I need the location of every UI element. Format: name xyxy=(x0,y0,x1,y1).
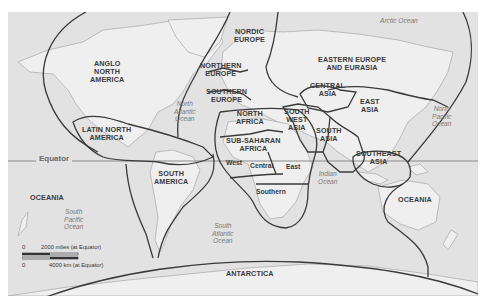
label-line: Arctic Ocean xyxy=(380,17,418,25)
region-label-southern-europe: SOUTHERN EUROPE xyxy=(206,88,247,104)
subregion-label-southern: Southern xyxy=(256,188,286,196)
ocean-label-south-pacific: South Pacific Ocean xyxy=(64,208,83,231)
scale-bar-graphic xyxy=(22,252,82,262)
label-line: Pacific xyxy=(432,113,451,121)
region-label-northern-europe: NORTHERN EUROPE xyxy=(200,62,242,78)
label-line: South xyxy=(64,208,83,216)
region-label-nordic-europe: NORDIC EUROPE xyxy=(234,28,265,44)
region-label-eastern-europe-eurasia: EASTERN EUROPE AND EURASIA xyxy=(318,56,386,72)
label-line: EUROPE xyxy=(206,96,247,104)
label-line: Atlantic xyxy=(212,230,234,238)
ocean-label-south-atlantic: South Atlantic Ocean xyxy=(212,222,234,245)
label-line: North xyxy=(432,105,451,113)
label-line: EUROPE xyxy=(200,70,242,78)
label-line: EUROPE xyxy=(234,36,265,44)
ocean-label-indian: Indian Ocean xyxy=(318,170,337,185)
label-line: AFRICA xyxy=(226,145,281,153)
label-line: South xyxy=(212,222,234,230)
region-label-central-asia: CENTRAL ASIA xyxy=(310,82,345,98)
scale-zero-miles: 0 xyxy=(22,244,25,250)
ocean-label-north-atlantic: North Atlantic Ocean xyxy=(174,100,196,123)
label-line: ASIA xyxy=(284,124,310,132)
world-regions-map: Equator xyxy=(8,12,478,296)
label-line: OCEANIA xyxy=(30,194,64,202)
scale-zero-km: 0 xyxy=(22,262,25,268)
region-label-southwest-asia: SOUTH WEST ASIA xyxy=(284,108,310,132)
label-line: ASIA xyxy=(356,158,401,166)
region-label-south-asia: SOUTH ASIA xyxy=(316,127,342,143)
region-label-oceania-west: OCEANIA xyxy=(30,194,64,202)
label-line: Pacific xyxy=(64,216,83,224)
label-line: Ocean xyxy=(64,223,83,231)
label-line: North xyxy=(174,100,196,108)
subregion-label-east: East xyxy=(286,163,300,171)
region-label-north-africa: NORTH AFRICA xyxy=(236,110,264,126)
label-line: ASIA xyxy=(310,90,345,98)
region-label-southeast-asia: SOUTHEAST ASIA xyxy=(356,150,401,166)
region-label-south-america: SOUTH AMERICA xyxy=(154,170,188,186)
scale-km-label: 4000 km (at Equator) xyxy=(49,262,103,268)
label-line: Ocean xyxy=(212,237,234,245)
region-label-anglo-north-america: ANGLO NORTH AMERICA xyxy=(90,60,124,84)
label-line: AND EURASIA xyxy=(318,64,386,72)
region-label-antarctica: ANTARCTICA xyxy=(226,270,274,278)
label-line: Ocean xyxy=(318,178,337,186)
label-line: ANTARCTICA xyxy=(226,270,274,278)
region-label-east-asia: EAST ASIA xyxy=(360,98,380,114)
ocean-label-north-pacific: North Pacific Ocean xyxy=(432,105,451,128)
ocean-label-arctic: Arctic Ocean xyxy=(380,17,418,25)
region-label-oceania: OCEANIA xyxy=(398,196,432,204)
label-line: AFRICA xyxy=(236,118,264,126)
label-line: ASIA xyxy=(360,106,380,114)
label-line: Ocean xyxy=(432,120,451,128)
label-line: Ocean xyxy=(174,115,196,123)
label-line: Atlantic xyxy=(174,108,196,116)
region-label-latin-north-america: LATIN NORTH AMERICA xyxy=(82,126,131,142)
label-line: ASIA xyxy=(316,135,342,143)
region-label-sub-saharan-africa: SUB-SAHARAN AFRICA xyxy=(226,137,281,153)
label-line: Indian xyxy=(318,170,337,178)
subregion-label-central: Central xyxy=(250,162,273,170)
label-line: AMERICA xyxy=(154,178,188,186)
scale-miles-label: 2000 miles (at Equator) xyxy=(41,244,101,250)
label-line: AMERICA xyxy=(82,134,131,142)
subregion-label-west: West xyxy=(226,159,242,167)
label-line: OCEANIA xyxy=(398,196,432,204)
label-line: AMERICA xyxy=(90,76,124,84)
